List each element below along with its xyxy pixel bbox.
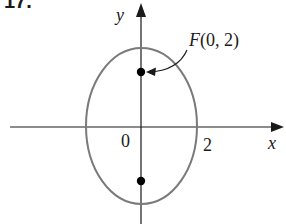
diagram-canvas <box>0 0 286 224</box>
focus-label: F(0, 2) <box>189 31 239 49</box>
problem-number: 17. <box>4 0 32 11</box>
annotation-arrowhead-icon <box>146 68 156 77</box>
x-axis-arrow-icon <box>271 122 284 132</box>
x-axis-label: x <box>268 134 276 152</box>
y-axis-arrow-icon <box>136 3 146 17</box>
focus-label-name: F <box>189 30 200 50</box>
ellipse-figure: 17. y x 0 2 F(0, 2) <box>0 0 286 224</box>
x-tick-label-2: 2 <box>203 136 212 154</box>
focus-label-coords: (0, 2) <box>200 30 239 50</box>
focus-point-lower <box>137 177 145 185</box>
origin-label: 0 <box>121 132 130 150</box>
y-axis-label: y <box>116 6 124 24</box>
focus-point-upper <box>137 68 145 76</box>
